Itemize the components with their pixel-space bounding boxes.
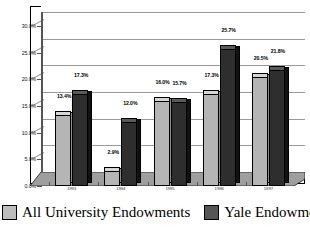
bar-top — [55, 111, 71, 115]
bar-value-label: 17.3% — [70, 72, 92, 78]
bar-side — [285, 67, 289, 183]
bar-top — [121, 118, 137, 122]
bar-side — [236, 46, 240, 183]
x-tick-label-1994: 1994 — [98, 186, 143, 191]
bar-face — [72, 94, 88, 186]
bars-layer: 13.4%17.3%2.9%12.0%16.0%15.7%17.3%25.7%2… — [0, 0, 310, 196]
bar-face — [154, 101, 170, 186]
bar-1995-yale — [171, 88, 187, 186]
bar-1996-yale — [220, 35, 236, 186]
chart-container: 0.0%5.0%10.0%15.0%20.0%25.0%30.0% 13.4%1… — [0, 0, 310, 196]
bar-top — [269, 66, 285, 70]
x-tick-mark — [197, 182, 198, 186]
bar-1996-all-university — [203, 80, 219, 186]
bar-1993-yale — [72, 80, 88, 186]
legend-item-all-university-endowments[interactable]: All University Endowments — [2, 205, 190, 220]
x-tick-mark — [98, 182, 99, 186]
bar-face — [104, 171, 120, 186]
bar-top — [154, 97, 170, 101]
bar-1997-yale — [269, 56, 285, 186]
bar-side — [137, 119, 141, 183]
bar-top — [104, 167, 120, 171]
bar-value-label: 25.7% — [218, 27, 240, 33]
bar-face — [171, 102, 187, 186]
legend-swatch-light-icon — [2, 205, 17, 220]
x-tick-label-1997: 1997 — [246, 186, 291, 191]
bar-face — [269, 70, 285, 186]
x-tick-label-1995: 1995 — [148, 186, 193, 191]
bar-value-label: 12.0% — [119, 100, 141, 106]
bar-face — [121, 122, 137, 186]
x-tick-mark — [49, 182, 50, 186]
legend-label-all-university-endowments: All University Endowments — [22, 205, 190, 220]
chart-legend: All University Endowments Yale Endowment — [0, 196, 310, 228]
bar-side — [187, 99, 191, 183]
bar-top — [171, 98, 187, 102]
legend-item-yale-endowment[interactable]: Yale Endowment — [204, 205, 310, 220]
x-tick-label-1993: 1993 — [49, 186, 94, 191]
bar-1994-all-university — [104, 157, 120, 186]
bar-1994-yale — [121, 108, 137, 186]
legend-swatch-dark-icon — [204, 205, 219, 220]
bar-top — [252, 73, 268, 77]
bar-top — [220, 45, 236, 49]
bar-face — [252, 77, 268, 186]
x-tick-mark — [148, 182, 149, 186]
x-tick-label-1996: 1996 — [197, 186, 242, 191]
bar-top — [72, 90, 88, 94]
bar-value-label: 21.8% — [267, 48, 289, 54]
bar-face — [220, 49, 236, 186]
legend-label-yale-endowment: Yale Endowment — [224, 205, 310, 220]
bar-side — [88, 91, 92, 183]
x-tick-mark — [246, 182, 247, 186]
bar-face — [55, 115, 71, 186]
bar-face — [203, 94, 219, 186]
bar-1997-all-university — [252, 63, 268, 186]
bar-1993-all-university — [55, 101, 71, 186]
bar-top — [203, 90, 219, 94]
bar-value-label: 15.7% — [169, 80, 191, 86]
bar-1995-all-university — [154, 87, 170, 186]
